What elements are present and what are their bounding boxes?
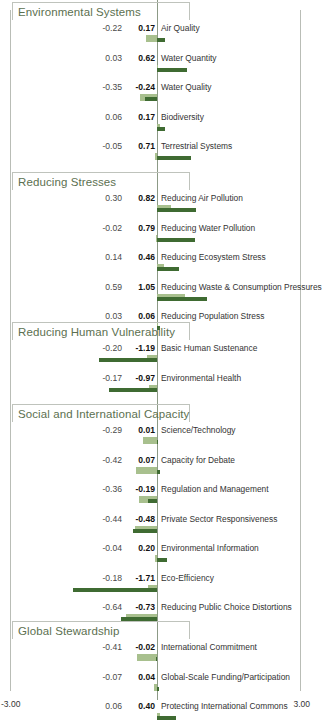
- row-label: Reducing Water Pollution: [161, 223, 255, 233]
- row-labels: -0.220.17Air Quality: [10, 22, 302, 36]
- value-light: 0.03: [105, 53, 122, 63]
- value-dark: -1.71: [130, 573, 155, 583]
- row-bars: [10, 294, 302, 307]
- row-bars: [10, 684, 302, 697]
- section-title: Social and International Capacity: [13, 408, 189, 420]
- value-dark: 0.71: [130, 141, 155, 151]
- chart-row: -0.20-1.19Basic Human Sustenance: [10, 342, 302, 372]
- row-bars: [10, 654, 302, 667]
- row-label: Reducing Waste & Consumption Pressures: [161, 282, 322, 292]
- bar-dark: [157, 208, 196, 212]
- section-title: Reducing Stresses: [13, 176, 116, 188]
- row-label: Reducing Ecosystem Stress: [161, 252, 266, 262]
- value-light: 0.30: [105, 193, 122, 203]
- chart-row: -0.36-0.19Regulation and Management: [10, 483, 302, 513]
- bar-dark: [148, 499, 157, 503]
- row-bars: [10, 713, 302, 724]
- chart-row: -0.35-0.24Water Quality: [10, 81, 302, 111]
- row-labels: 0.300.82Reducing Air Pollution: [10, 192, 302, 206]
- row-labels: 0.591.05Reducing Waste & Consumption Pre…: [10, 281, 302, 295]
- row-label: Terrestrial Systems: [161, 141, 232, 151]
- row-bars: [10, 205, 302, 218]
- value-dark: 0.17: [130, 112, 155, 122]
- value-light: -0.41: [102, 642, 122, 652]
- chart-row: 0.060.17Biodiversity: [10, 111, 302, 141]
- row-labels: -0.420.07Capacity for Debate: [10, 454, 302, 468]
- row-labels: -0.64-0.73Reducing Public Choice Distort…: [10, 601, 302, 615]
- bar-dark: [145, 97, 157, 101]
- value-dark: 0.46: [130, 252, 155, 262]
- section: Reducing Human Vulnerability-0.20-1.19Ba…: [10, 322, 302, 340]
- section-title: Reducing Human Vulnerability: [13, 326, 175, 338]
- row-label: Environmental Information: [161, 543, 259, 553]
- chart-row: -0.17-0.97Environmental Health: [10, 372, 302, 402]
- row-label: Water Quality: [161, 82, 211, 92]
- row-bars: [10, 153, 302, 166]
- bar-light: [137, 654, 157, 661]
- row-label: Environmental Health: [161, 373, 241, 383]
- chart-row: 0.060.40Protecting International Commons: [10, 700, 302, 724]
- chart-row: 0.140.46Reducing Ecosystem Stress: [10, 251, 302, 281]
- section-header: Reducing Human Vulnerability: [12, 322, 190, 340]
- value-dark: 0.62: [130, 53, 155, 63]
- value-dark: 0.04: [130, 672, 155, 682]
- value-light: -0.42: [102, 455, 122, 465]
- value-light: -0.18: [102, 573, 122, 583]
- section: Global Stewardship-0.41-0.02Internationa…: [10, 621, 302, 639]
- row-bars: [10, 526, 302, 539]
- value-light: 0.14: [105, 252, 122, 262]
- value-dark: 0.17: [130, 23, 155, 33]
- row-labels: -0.20-1.19Basic Human Sustenance: [10, 342, 302, 356]
- row-label: Water Quantity: [161, 53, 217, 63]
- bar-dark: [157, 440, 158, 444]
- value-dark: 0.79: [130, 223, 155, 233]
- value-light: -0.36: [102, 484, 122, 494]
- section: Environmental Systems-0.220.17Air Qualit…: [10, 2, 302, 20]
- bar-dark: [157, 470, 160, 474]
- section-header: Social and International Capacity: [12, 404, 190, 422]
- value-light: -0.29: [102, 425, 122, 435]
- row-label: Private Sector Responsiveness: [161, 514, 277, 524]
- value-dark: 0.40: [130, 701, 155, 711]
- bar-dark: [157, 558, 167, 562]
- chart-row: -0.220.17Air Quality: [10, 22, 302, 52]
- row-labels: -0.17-0.97Environmental Health: [10, 372, 302, 386]
- value-dark: -0.02: [130, 642, 155, 652]
- row-label: Global-Scale Funding/Participation: [161, 672, 290, 682]
- bar-dark: [133, 529, 157, 533]
- bar-dark: [157, 238, 195, 242]
- value-dark: 1.05: [130, 282, 155, 292]
- section-header: Global Stewardship: [12, 621, 190, 639]
- bar-dark: [157, 127, 165, 131]
- bar-dark: [157, 687, 159, 691]
- row-labels: -0.020.79Reducing Water Pollution: [10, 222, 302, 236]
- row-label: Reducing Air Pollution: [161, 193, 243, 203]
- chart-row: -0.040.20Environmental Information: [10, 542, 302, 572]
- row-bars: [10, 235, 302, 248]
- row-bars: [10, 124, 302, 137]
- row-labels: -0.35-0.24Water Quality: [10, 81, 302, 95]
- row-bars: [10, 94, 302, 107]
- value-light: -0.05: [102, 141, 122, 151]
- value-light: -0.04: [102, 543, 122, 553]
- row-labels: 0.060.17Biodiversity: [10, 111, 302, 125]
- row-bars: [10, 467, 302, 480]
- value-dark: -0.73: [130, 602, 155, 612]
- chart-row: 0.300.82Reducing Air Pollution: [10, 192, 302, 222]
- section-header: Reducing Stresses: [12, 172, 190, 190]
- bar-light: [146, 35, 157, 42]
- row-labels: -0.36-0.19Regulation and Management: [10, 483, 302, 497]
- value-light: -0.07: [102, 672, 122, 682]
- row-label: Eco-Efficiency: [161, 573, 214, 583]
- row-labels: -0.18-1.71Eco-Efficiency: [10, 572, 302, 586]
- row-bars: [10, 385, 302, 398]
- bar-dark: [157, 156, 191, 160]
- chart-row: -0.070.04Global-Scale Funding/Participat…: [10, 671, 302, 701]
- value-light: 0.06: [105, 112, 122, 122]
- section: Social and International Capacity-0.290.…: [10, 404, 302, 422]
- bar-dark: [73, 588, 157, 592]
- bar-dark: [157, 38, 165, 42]
- chart-row: 0.030.62Water Quantity: [10, 52, 302, 82]
- row-label: Air Quality: [161, 23, 200, 33]
- row-labels: 0.060.40Protecting International Commons: [10, 700, 302, 714]
